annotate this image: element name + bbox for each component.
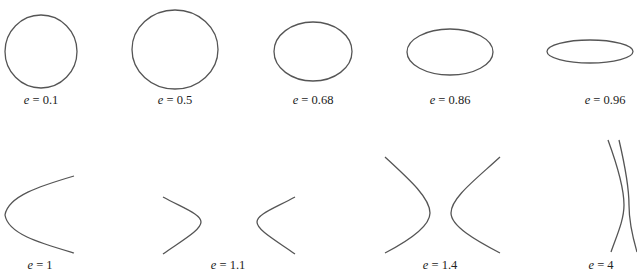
label-value: 4 — [607, 258, 614, 272]
conic-label: e = 0.68 — [293, 93, 334, 107]
label-value: 0.86 — [449, 93, 471, 107]
hyperbola-right-branch — [257, 197, 295, 254]
hyperbola-right-branch — [451, 157, 500, 253]
conic-label: e = 1.4 — [423, 258, 458, 272]
label-value: 0.5 — [177, 93, 193, 107]
conic-label: e = 0.86 — [430, 93, 471, 107]
label-equals: = — [435, 93, 448, 107]
ellipse-curve — [132, 10, 218, 89]
hyperbola-e-4: e = 4 — [588, 140, 637, 272]
label-value: 1 — [46, 258, 52, 272]
conic-label: e = 0.96 — [585, 93, 626, 107]
conic-label: e = 1.1 — [211, 258, 246, 272]
ellipse-e-0-86: e = 0.86 — [407, 29, 493, 107]
label-equals: = — [163, 93, 176, 107]
parabola-curve — [5, 176, 74, 253]
conic-label: e = 0.1 — [24, 93, 59, 107]
ellipse-e-0-5: e = 0.5 — [132, 10, 218, 107]
label-equals: = — [216, 258, 229, 272]
hyperbola-left-branch — [608, 140, 624, 252]
conic-label: e = 0.5 — [158, 93, 193, 107]
ellipse-e-0-1: e = 0.1 — [5, 15, 77, 107]
label-value: 0.96 — [604, 93, 626, 107]
label-value: 1.1 — [230, 258, 246, 272]
ellipse-e-0-68: e = 0.68 — [274, 22, 352, 107]
label-value: 1.4 — [442, 258, 458, 272]
label-equals: = — [428, 258, 441, 272]
ellipse-curve — [5, 15, 77, 88]
label-equals: = — [29, 93, 42, 107]
ellipse-curve — [407, 29, 493, 75]
label-value: 0.1 — [43, 93, 59, 107]
label-equals: = — [33, 258, 46, 272]
hyperbola-right-branch — [619, 140, 637, 252]
hyperbola-e-1-1: e = 1.1 — [163, 197, 295, 272]
hyperbola-e-1-4: e = 1.4 — [385, 157, 500, 272]
label-equals: = — [298, 93, 311, 107]
label-equals: = — [590, 93, 603, 107]
conic-sections-diagram: e = 0.1 e = 0.5 e = 0.68 e = 0.86 e = 0.… — [0, 0, 637, 273]
ellipse-curve — [547, 40, 633, 63]
label-value: 0.68 — [312, 93, 334, 107]
ellipse-curve — [274, 22, 352, 81]
hyperbola-left-branch — [385, 157, 430, 253]
label-equals: = — [594, 258, 607, 272]
conic-label: e = 4 — [588, 258, 614, 272]
ellipse-e-0-96: e = 0.96 — [547, 40, 633, 107]
conic-label: e = 1 — [27, 258, 52, 272]
hyperbola-left-branch — [163, 197, 201, 254]
parabola-e-1: e = 1 — [5, 176, 74, 272]
